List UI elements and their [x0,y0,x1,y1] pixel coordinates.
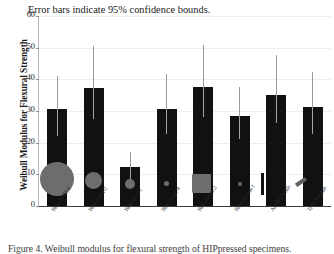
y-axis-tickmark [36,143,39,144]
error-bar-lower [130,167,131,179]
y-axis-tick-label: 20 [18,137,35,146]
bar-group [266,16,286,206]
error-bar-upper [130,152,131,167]
error-bar-lower [276,95,277,124]
marker-circle-icon [238,182,242,186]
error-bar-lower [93,88,94,120]
error-bar-upper [93,46,94,88]
error-bar-upper [239,87,240,116]
bar-group [157,16,177,206]
error-bar-upper [166,74,167,109]
y-axis-tick-label: 40 [18,73,35,82]
error-bar-lower [312,107,313,134]
error-bar-lower [203,87,204,117]
error-bar-upper [312,72,313,107]
y-axis-tick-label: 10 [18,168,35,177]
y-axis-tick-label: 60 [18,10,35,19]
plot-area: 0102030405060 [38,16,331,207]
y-axis-tick-label: 0 [18,200,35,209]
error-bar-upper [203,45,204,87]
y-axis-tickmark [36,48,39,49]
y-axis-tick-label: 50 [18,42,35,51]
y-axis-tickmark [36,79,39,80]
y-axis-tickmark [36,16,39,17]
y-axis-tickmark [36,111,39,112]
y-axis-tickmark [36,206,39,207]
chart-annotation: Error bars indicate 95% confidence bound… [28,4,210,15]
figure-caption: Figure 4. Weibull modulus for flexural s… [8,243,330,254]
error-bar-upper [57,76,58,109]
bar-group [230,16,250,206]
error-bar-upper [276,55,277,95]
marker-vertical-bar-icon [261,173,264,195]
error-bar-lower [239,116,240,139]
error-bar-lower [166,109,167,134]
y-axis-tick-label: 30 [18,105,35,114]
x-axis-labels: BiAs EDM-dBiAs EDM-2BiAs D1.5-1BiAs Diam… [38,209,330,241]
y-axis-tickmark [36,174,39,175]
error-bar-lower [57,109,58,136]
bar-group [120,16,140,206]
figure-container: Weibull Modulus for Flexural Strength Er… [0,0,334,254]
